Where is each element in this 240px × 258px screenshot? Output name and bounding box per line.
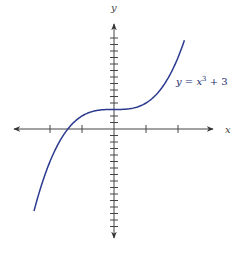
- cubic-function-graph: x y y = x3 + 3: [0, 0, 240, 258]
- cubic-curve: [34, 40, 184, 211]
- curve-label-suffix: + 3: [207, 76, 228, 87]
- x-axis: x: [14, 124, 231, 135]
- y-axis-label: y: [110, 2, 117, 13]
- y-axis: y: [110, 2, 118, 238]
- x-axis-label: x: [225, 124, 231, 135]
- curve-label: y = x3 + 3: [175, 75, 228, 87]
- curve-label-prefix: y = x: [175, 76, 202, 87]
